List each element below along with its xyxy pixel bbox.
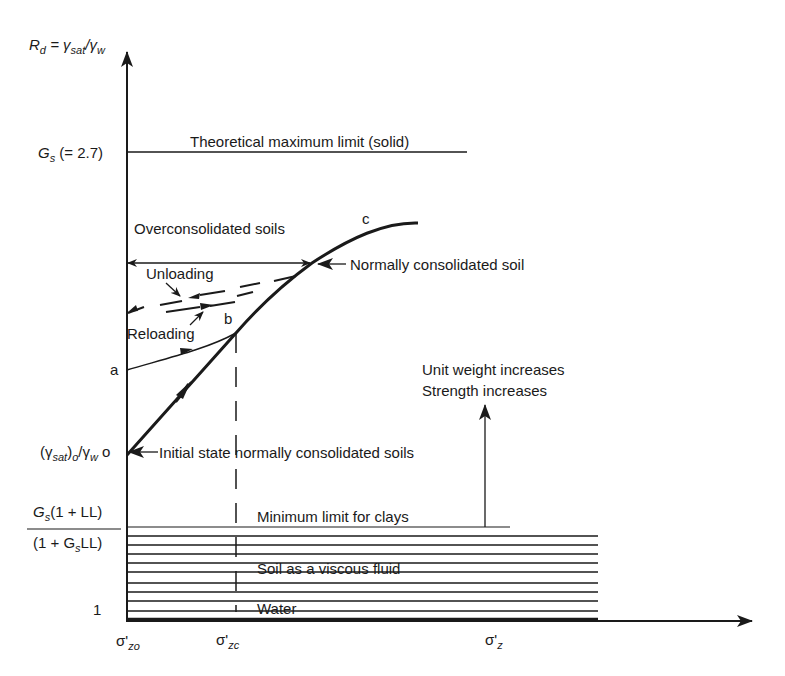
- unload-end-arrow: [128, 305, 138, 312]
- fraction-numerator: Gs(1 + LL): [33, 503, 102, 523]
- point-b-label: b: [224, 310, 232, 327]
- strength-label: Strength increases: [422, 382, 547, 399]
- unloading-pointer: [166, 283, 180, 296]
- initial-state-tick-label: (γsat)o/γw o: [40, 443, 110, 463]
- x-tick-sigma-zc: σ'zc: [216, 631, 240, 651]
- fraction-denominator: (1 + GsLL): [33, 534, 102, 554]
- one-tick-label: 1: [93, 601, 101, 618]
- theoretical-max-label: Theoretical maximum limit (solid): [190, 133, 409, 150]
- viscous-fluid-label: Soil as a viscous fluid: [257, 560, 400, 577]
- point-a-label: a: [110, 361, 119, 378]
- overconsolidated-label: Overconsolidated soils: [134, 220, 285, 237]
- minimum-limit-label: Minimum limit for clays: [257, 508, 409, 525]
- gs-tick-label: Gs (= 2.7): [38, 144, 103, 164]
- y-axis-label: Rd = γsat/γw: [29, 36, 106, 56]
- unit-weight-label: Unit weight increases: [422, 361, 565, 378]
- initial-state-label: Initial state normally consolidated soil…: [159, 444, 414, 461]
- x-tick-sigma-zo: σ'zo: [116, 632, 140, 652]
- reloading-pointer: [190, 312, 203, 325]
- water-label: Water: [257, 600, 296, 617]
- reloading-label: Reloading: [127, 325, 195, 342]
- normally-consolidated-label: Normally consolidated soil: [350, 256, 524, 273]
- consolidation-diagram: Rd = γsat/γw Gs (= 2.7) Theoretical maxi…: [0, 0, 785, 676]
- point-c-label: c: [362, 210, 370, 227]
- viscous-fluid-hatching: [127, 536, 598, 619]
- unloading-label: Unloading: [146, 265, 214, 282]
- x-tick-sigma-z: σ'z: [485, 631, 503, 651]
- unloading-arrow-head: [188, 293, 200, 299]
